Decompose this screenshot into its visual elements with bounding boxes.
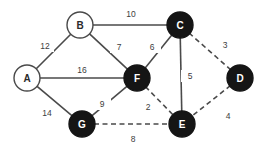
node-g[interactable]: G: [69, 111, 95, 137]
node-d[interactable]: D: [227, 65, 253, 91]
node-label-f: F: [134, 73, 140, 84]
node-label-c: C: [176, 20, 183, 31]
graph-diagram-canvas: 1210716651493428 ABCDEFG: [0, 0, 271, 151]
edge-weight-c-e: 5: [188, 71, 193, 81]
edge-weight-a-f: 16: [77, 65, 87, 75]
edge-weight-b-f: 7: [117, 42, 122, 52]
node-label-a: A: [23, 73, 30, 84]
edge-weight-d-e: 4: [226, 111, 231, 121]
node-f[interactable]: F: [124, 65, 150, 91]
edge-weight-a-b: 12: [40, 41, 50, 51]
node-label-e: E: [179, 119, 186, 130]
edge-c-d: [189, 33, 231, 70]
node-label-g: G: [78, 119, 86, 130]
edge-weight-c-d: 3: [223, 40, 228, 50]
edge-weight-g-e: 8: [131, 134, 136, 144]
edge-weight-a-g: 14: [42, 108, 52, 118]
node-c[interactable]: C: [167, 12, 193, 38]
graph-svg: 1210716651493428 ABCDEFG: [0, 0, 271, 151]
node-b[interactable]: B: [67, 12, 93, 38]
node-label-d: D: [236, 73, 243, 84]
node-a[interactable]: A: [14, 65, 40, 91]
edge-weight-b-c: 10: [126, 9, 136, 19]
edge-weight-g-f: 9: [100, 99, 105, 109]
edge-weight-f-e: 2: [146, 102, 151, 112]
edge-weight-c-f: 6: [150, 42, 155, 52]
node-label-b: B: [76, 20, 83, 31]
node-e[interactable]: E: [169, 111, 195, 137]
